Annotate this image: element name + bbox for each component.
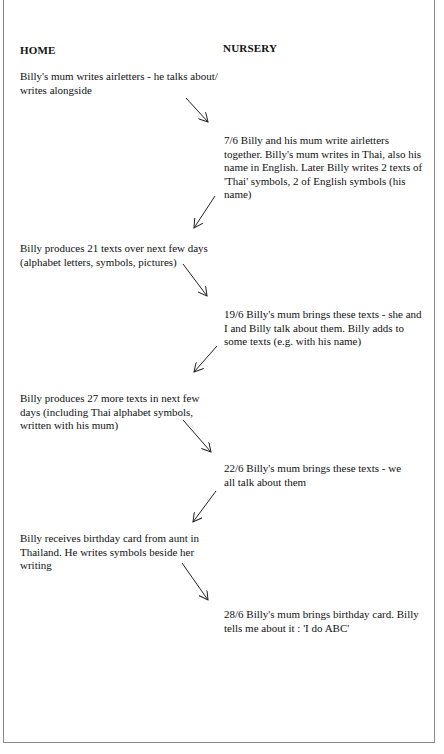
arrow-nursery-to-home-icon <box>193 491 216 522</box>
arrow-home-to-nursery-icon <box>182 563 208 600</box>
arrow-home-to-nursery-icon <box>186 98 208 122</box>
arrow-nursery-to-home-icon <box>194 196 215 228</box>
arrow-nursery-to-home-icon <box>194 346 217 372</box>
arrow-home-to-nursery-icon <box>183 420 211 452</box>
flow-arrows <box>0 0 444 754</box>
arrow-home-to-nursery-icon <box>183 264 207 296</box>
